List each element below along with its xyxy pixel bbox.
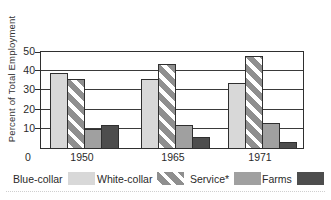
bar-white-collar-1971 <box>245 56 263 148</box>
bar-group-1950 <box>50 73 119 148</box>
y-tick-mark-50 <box>35 52 40 53</box>
legend-item-blue-collar: Blue-collar <box>13 172 95 185</box>
bar-service-1971 <box>262 123 280 148</box>
y-tick-label-20: 20 <box>13 104 35 115</box>
legend-label-white-collar: White-collar <box>97 173 152 185</box>
bar-farms-1950 <box>101 125 119 148</box>
bar-blue-collar-1950 <box>50 73 68 148</box>
legend-swatch-farms <box>297 172 324 185</box>
bar-blue-collar-1965 <box>141 79 159 148</box>
bar-service-1965 <box>175 125 193 148</box>
y-axis-origin-label: 0 <box>25 151 31 163</box>
y-tick-mark-20 <box>35 109 40 110</box>
legend-label-service: Service* <box>190 173 229 185</box>
x-tick-label-1965: 1965 <box>161 151 184 163</box>
bar-chart-figure: Percent of Total Employment 0 Blue-colla… <box>0 0 331 200</box>
page-rule-line <box>6 191 325 192</box>
y-tick-label-50: 50 <box>13 46 35 57</box>
bar-farms-1965 <box>192 137 210 148</box>
y-tick-label-30: 30 <box>13 84 35 95</box>
y-tick-mark-30 <box>35 89 40 90</box>
bar-white-collar-1965 <box>158 64 176 148</box>
y-tick-label-40: 40 <box>13 65 35 76</box>
legend-swatch-service <box>234 172 261 185</box>
bar-service-1950 <box>84 129 102 148</box>
legend-item-service: Service* <box>190 172 261 185</box>
bar-group-1965 <box>141 64 210 148</box>
legend: Blue-collar White-collar Service* Farms <box>0 172 331 190</box>
bar-white-collar-1950 <box>67 79 85 148</box>
legend-swatch-white-collar <box>157 172 184 185</box>
legend-swatch-blue-collar <box>68 172 95 185</box>
y-tick-mark-10 <box>35 128 40 129</box>
y-tick-label-10: 10 <box>13 123 35 134</box>
bar-farms-1971 <box>279 142 297 148</box>
legend-label-blue-collar: Blue-collar <box>13 173 63 185</box>
legend-label-farms: Farms <box>262 173 292 185</box>
legend-item-farms: Farms <box>262 172 324 185</box>
plot-area <box>40 51 304 149</box>
bar-blue-collar-1971 <box>228 83 246 148</box>
x-tick-label-1971: 1971 <box>248 151 271 163</box>
y-tick-mark-40 <box>35 70 40 71</box>
x-tick-label-1950: 1950 <box>70 151 93 163</box>
legend-item-white-collar: White-collar <box>97 172 184 185</box>
bar-group-1971 <box>228 56 297 148</box>
